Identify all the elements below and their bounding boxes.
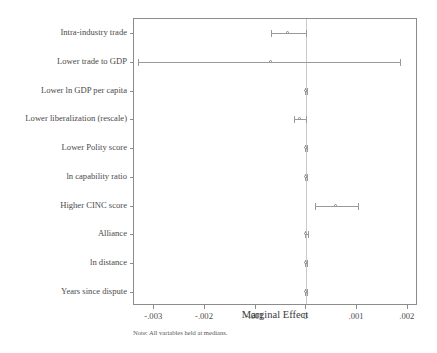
plot-area <box>134 19 416 304</box>
y-axis-label: Years since dispute <box>61 286 127 296</box>
point-estimate-marker <box>334 204 337 207</box>
y-axis-tick <box>130 91 134 92</box>
y-axis-tick <box>130 234 134 235</box>
ci-upper-cap <box>307 289 308 296</box>
ci-lower-cap <box>138 59 139 66</box>
plot-frame <box>133 18 417 305</box>
ci-upper-cap <box>308 231 309 238</box>
marginal-effects-figure: Intra-industry tradeLower trade to GDPLo… <box>0 0 437 353</box>
y-axis-label: Lower trade to GDP <box>57 56 127 66</box>
point-estimate-marker <box>269 60 272 63</box>
ci-upper-cap <box>307 145 308 152</box>
x-axis-title: Marginal Effect <box>133 309 417 320</box>
confidence-interval-line <box>271 33 306 34</box>
y-axis-tick <box>130 292 134 293</box>
ci-upper-cap <box>307 174 308 181</box>
y-axis-label: Lower liberalization (rescale) <box>25 113 127 123</box>
y-axis-tick <box>130 263 134 264</box>
y-axis-tick <box>130 206 134 207</box>
ci-lower-cap <box>294 116 295 123</box>
ci-lower-cap <box>271 30 272 37</box>
y-axis-label: Lower ln GDP per capita <box>41 85 127 95</box>
y-axis-tick <box>130 119 134 120</box>
y-axis-label: Lower Polity score <box>62 142 127 152</box>
y-axis-label: ln capability ratio <box>66 171 127 181</box>
ci-upper-cap <box>306 116 307 123</box>
y-axis-tick <box>130 33 134 34</box>
ci-upper-cap <box>307 260 308 267</box>
y-axis-tick <box>130 62 134 63</box>
y-axis-label: ln distance <box>90 257 127 267</box>
y-axis-tick <box>130 177 134 178</box>
y-axis-label: Higher CINC score <box>60 200 127 210</box>
y-axis-label: Alliance <box>98 228 127 238</box>
ci-upper-cap <box>358 203 359 210</box>
ci-upper-cap <box>306 30 307 37</box>
ci-upper-cap <box>400 59 401 66</box>
y-axis-label: Intra-industry trade <box>60 27 127 37</box>
ci-lower-cap <box>315 203 316 210</box>
ci-upper-cap <box>307 88 308 95</box>
figure-note: Note: All variables held at medians. <box>133 329 228 336</box>
y-axis-tick <box>130 148 134 149</box>
